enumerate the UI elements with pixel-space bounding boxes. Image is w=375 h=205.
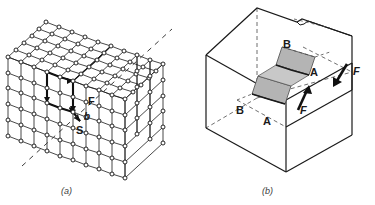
label-burgers-vector: b bbox=[84, 111, 90, 122]
figure-container: F b S bbox=[0, 0, 375, 205]
label-finish: F bbox=[88, 95, 95, 107]
label-plane-b-upper: B bbox=[283, 38, 291, 50]
label-plane-a-lower: A bbox=[263, 115, 271, 127]
caption-panel-a: (a) bbox=[61, 186, 72, 196]
caption-panel-b: (b) bbox=[262, 186, 273, 196]
label-plane-b-lower: B bbox=[236, 104, 244, 116]
panel-b-block: B A B A F F bbox=[190, 0, 375, 182]
label-plane-a-upper: A bbox=[310, 66, 318, 78]
label-force-outer: F bbox=[353, 65, 360, 77]
label-start: S bbox=[76, 124, 83, 136]
panel-a-lattice: F b S bbox=[0, 0, 190, 182]
burgers-vector-arrow bbox=[69, 107, 80, 122]
label-force-inner: F bbox=[300, 104, 307, 116]
force-arrow-outer bbox=[333, 64, 347, 87]
